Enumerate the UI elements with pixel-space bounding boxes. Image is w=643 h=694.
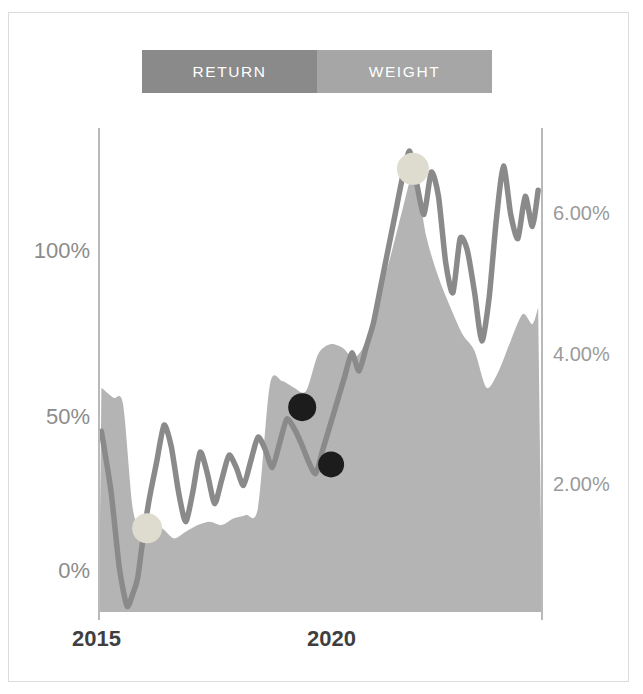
- y-right-tick-2: 2.00%: [553, 473, 610, 496]
- chart-page: RETURN WEIGHT 100% 50% 0% 6.00% 4.00% 2.…: [0, 0, 643, 694]
- weight-area-path: [99, 173, 542, 612]
- weight-area-series: [99, 173, 542, 612]
- y-left-tick-0: 0%: [0, 558, 90, 584]
- y-left-tick-100: 100%: [0, 238, 90, 264]
- y-right-tick-6: 6.00%: [553, 202, 610, 225]
- chart-svg: [0, 0, 643, 694]
- y-right-tick-4: 4.00%: [553, 343, 610, 366]
- return-marker-lower[interactable]: [318, 451, 344, 477]
- x-tick-2015: 2015: [72, 626, 121, 652]
- weight-marker-start[interactable]: [132, 513, 162, 543]
- x-tick-2020: 2020: [307, 626, 356, 652]
- return-marker-upper[interactable]: [288, 393, 316, 421]
- weight-marker-peak[interactable]: [397, 153, 429, 185]
- plot-area: 100% 50% 0% 6.00% 4.00% 2.00% 2015 2020: [0, 0, 643, 694]
- y-left-tick-50: 50%: [0, 404, 90, 430]
